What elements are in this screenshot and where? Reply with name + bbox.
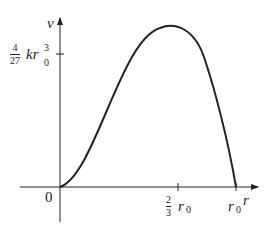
y-axis-label: v	[47, 16, 54, 31]
graph: v r 0 4 27 kr 3 0 2 3 r 0 r 0	[0, 0, 267, 226]
graph-canvas	[0, 0, 267, 226]
x-axis-label: r	[243, 193, 249, 208]
origin-label: 0	[45, 190, 53, 205]
curve	[60, 26, 236, 187]
